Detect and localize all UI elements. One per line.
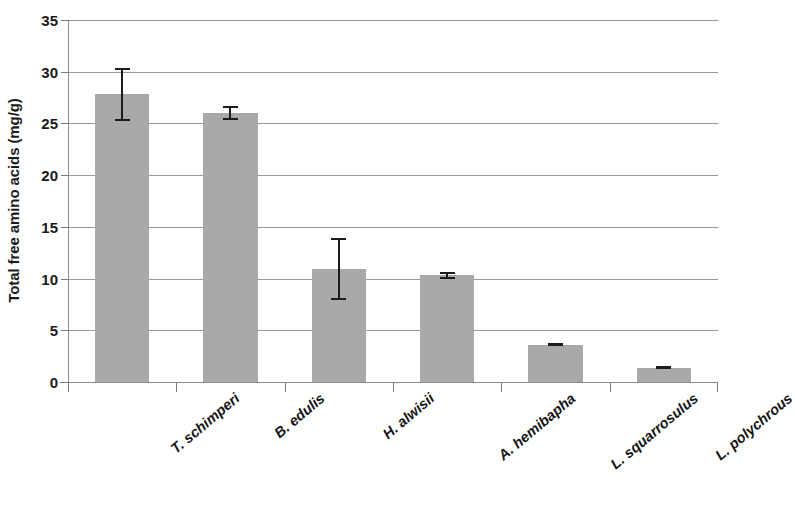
y-tick-label: 10 xyxy=(41,270,58,287)
error-bar xyxy=(95,68,149,122)
y-tick-mark xyxy=(61,72,69,73)
y-tick-mark xyxy=(61,123,69,124)
error-bar xyxy=(203,106,257,120)
error-bar-cap-top xyxy=(223,106,238,108)
bar[interactable] xyxy=(420,275,474,382)
y-tick-mark xyxy=(61,279,69,280)
y-tick-mark xyxy=(61,175,69,176)
x-axis-tick-labels: T. schimperiB. edulisH. alwisiiA. hemiba… xyxy=(0,390,723,513)
x-axis-line xyxy=(60,382,718,383)
y-axis-title-text: Total free amino acids (mg/g) xyxy=(5,98,22,302)
y-tick-label: 5 xyxy=(50,322,58,339)
error-bar-cap-bottom xyxy=(440,277,455,279)
gridline xyxy=(68,279,718,280)
bar[interactable] xyxy=(528,345,582,382)
error-bar xyxy=(637,366,691,369)
x-tick-label: L. squarrosulus xyxy=(607,390,701,472)
gridline xyxy=(68,330,718,331)
bar[interactable] xyxy=(203,113,257,382)
x-tick-label: B. edulis xyxy=(271,390,328,441)
y-tick-mark xyxy=(61,20,69,21)
error-bar xyxy=(312,238,366,300)
gridline xyxy=(68,175,718,176)
gridline xyxy=(68,227,718,228)
error-bar-cap-bottom xyxy=(548,344,563,346)
bar[interactable] xyxy=(95,94,149,382)
y-tick-label: 25 xyxy=(41,115,58,132)
y-axis-tick-labels: 05101520253035 xyxy=(26,0,64,400)
gridline xyxy=(68,20,718,21)
y-tick-label: 20 xyxy=(41,167,58,184)
error-bar xyxy=(528,343,582,346)
error-bar-cap-bottom xyxy=(223,118,238,120)
x-tick-label: L. polychrous xyxy=(712,390,795,463)
error-bar-cap-top xyxy=(115,68,130,70)
y-axis-title: Total free amino acids (mg/g) xyxy=(0,0,26,400)
error-bar-cap-bottom xyxy=(331,298,346,300)
y-tick-label: 30 xyxy=(41,63,58,80)
error-bar-cap-top xyxy=(440,272,455,274)
error-bar-stem xyxy=(338,238,340,300)
y-tick-label: 0 xyxy=(50,374,58,391)
x-tick-label: A. hemibapha xyxy=(495,390,578,463)
error-bar-cap-bottom xyxy=(115,119,130,121)
y-tick-label: 15 xyxy=(41,218,58,235)
plot-area xyxy=(68,20,718,383)
gridline xyxy=(68,72,718,73)
x-tick-label: T. schimperi xyxy=(168,390,243,456)
y-tick-mark xyxy=(61,227,69,228)
bar[interactable] xyxy=(637,368,691,382)
error-bar-cap-top xyxy=(331,238,346,240)
error-bar xyxy=(420,272,474,278)
gridline xyxy=(68,123,718,124)
error-bar-cap-bottom xyxy=(656,367,671,369)
error-bar-stem xyxy=(121,68,123,122)
y-tick-mark xyxy=(61,330,69,331)
y-axis-line xyxy=(68,20,69,383)
y-tick-label: 35 xyxy=(41,12,58,29)
x-tick-label: H. alwisii xyxy=(379,390,437,442)
